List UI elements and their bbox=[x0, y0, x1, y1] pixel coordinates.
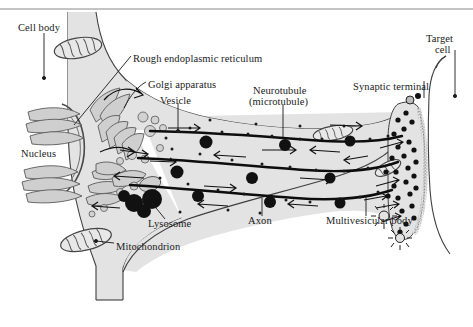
label-target: Target bbox=[426, 33, 453, 45]
label-vesicle: Vesicle bbox=[160, 95, 191, 107]
label-microtubule: (microtubule) bbox=[249, 96, 308, 108]
label-synaptic-terminal: Synaptic terminal bbox=[353, 81, 429, 93]
label-golgi-apparatus: Golgi apparatus bbox=[148, 79, 216, 91]
label-cell-body: Cell body bbox=[18, 22, 60, 34]
label-nucleus: Nucleus bbox=[21, 148, 56, 160]
label-multivesicular-body: Multivesicular body bbox=[326, 215, 413, 227]
label-mitochondrion: Mitochondrion bbox=[116, 241, 180, 253]
label-target-cell: cell bbox=[435, 44, 451, 56]
diagram-canvas bbox=[0, 0, 473, 327]
neuron-diagram-figure: Cell body Rough endoplasmic reticulum Go… bbox=[0, 0, 473, 327]
label-axon: Axon bbox=[248, 215, 272, 227]
label-lysosome: Lysosome bbox=[148, 218, 191, 230]
label-rough-endoplasmic-reticulum: Rough endoplasmic reticulum bbox=[133, 53, 262, 65]
label-neurotubule: Neurotubule bbox=[253, 85, 307, 97]
target-cell-shape bbox=[428, 56, 450, 254]
